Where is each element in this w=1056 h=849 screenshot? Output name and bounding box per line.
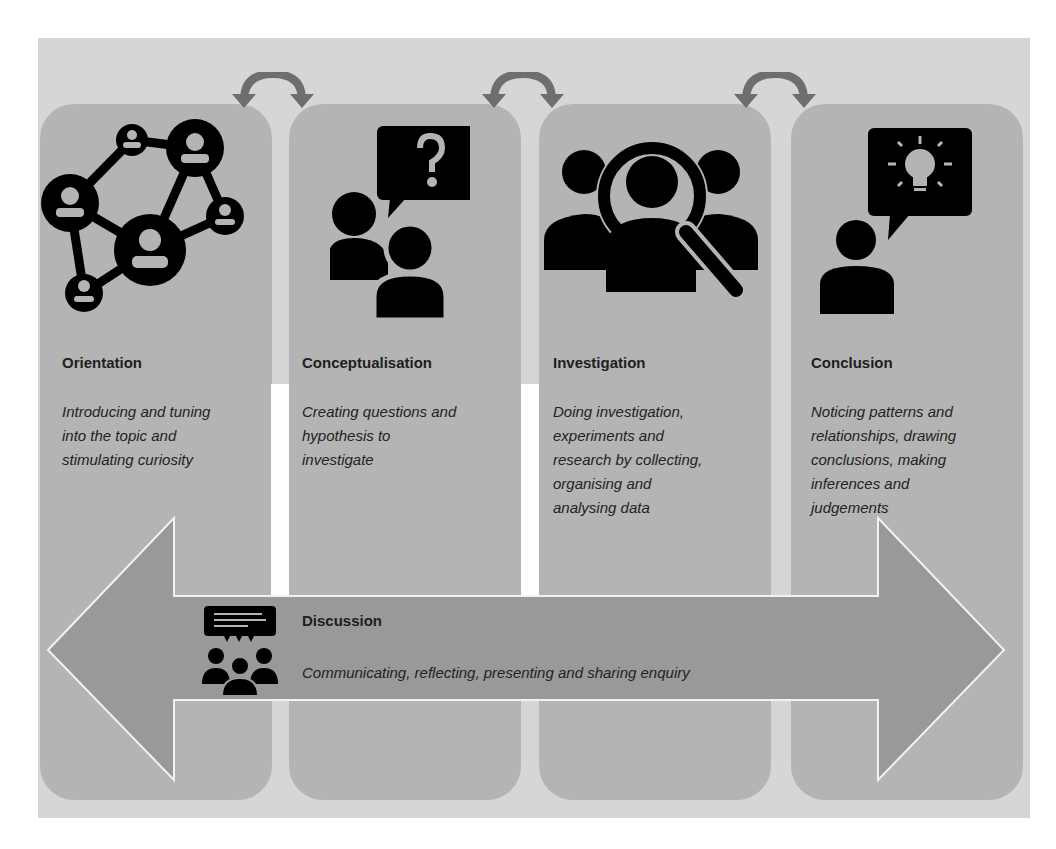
double-headed-arrow-band bbox=[0, 0, 1056, 849]
discussion-description: Communicating, reflecting, presenting an… bbox=[302, 664, 690, 681]
discussion-group-icon bbox=[200, 604, 280, 700]
discussion-title: Discussion bbox=[302, 612, 382, 629]
